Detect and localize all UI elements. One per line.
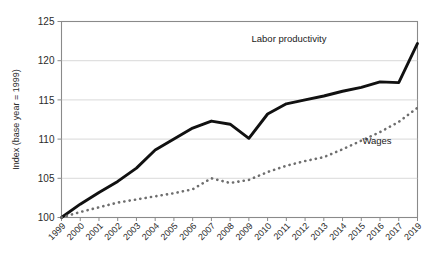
- xtick-label-2008: 2008: [215, 221, 236, 242]
- xtick-label-2014: 2014: [327, 221, 348, 242]
- xtick-label-2004: 2004: [140, 221, 161, 242]
- plot-area: [62, 22, 418, 218]
- ytick-label-115: 115: [39, 95, 55, 106]
- ytick-label-105: 105: [38, 173, 55, 184]
- xtick-label-2010: 2010: [252, 221, 273, 242]
- xtick-label-1999: 1999: [46, 221, 67, 242]
- xtick-label-2019: 2019: [402, 221, 423, 242]
- xtick-label-2013: 2013: [308, 221, 329, 242]
- series-annotation-wages: Wages: [362, 135, 391, 146]
- xtick-label-2016: 2016: [365, 221, 386, 242]
- xtick-label-2001: 2001: [84, 221, 105, 242]
- xtick-label-2017: 2017: [383, 221, 404, 242]
- xtick-label-2011: 2011: [271, 221, 292, 242]
- xtick-label-2012: 2012: [290, 221, 311, 242]
- chart-container: 100105110115120125Index (base year = 199…: [0, 0, 442, 270]
- xtick-label-2005: 2005: [159, 221, 180, 242]
- line-chart: 100105110115120125Index (base year = 199…: [0, 0, 442, 270]
- xtick-label-2002: 2002: [102, 221, 123, 242]
- xtick-label-2000: 2000: [65, 221, 86, 242]
- xtick-label-2015: 2015: [346, 221, 367, 242]
- ytick-label-100: 100: [38, 212, 55, 223]
- xtick-label-2009: 2009: [234, 221, 255, 242]
- xtick-label-2007: 2007: [196, 221, 217, 242]
- ytick-label-120: 120: [38, 55, 55, 66]
- series-annotation-labor-productivity: Labor productivity: [252, 33, 327, 44]
- ytick-label-125: 125: [38, 16, 55, 27]
- xtick-label-2003: 2003: [121, 221, 142, 242]
- xtick-label-2006: 2006: [177, 221, 198, 242]
- ytick-label-110: 110: [39, 134, 55, 145]
- y-axis-title: Index (base year = 1999): [11, 69, 21, 169]
